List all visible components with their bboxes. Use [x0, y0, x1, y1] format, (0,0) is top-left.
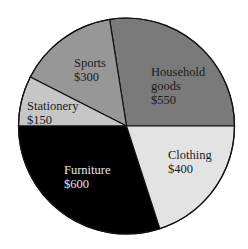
- label-furniture-value: $600: [64, 177, 111, 191]
- label-stationery: Stationery $150: [27, 99, 78, 127]
- label-furniture: Furniture $600: [64, 163, 111, 191]
- label-household-name-2: goods: [151, 79, 205, 93]
- label-household-name-1: Household: [151, 65, 205, 79]
- label-sports: Sports $300: [74, 56, 106, 84]
- label-stationery-name: Stationery: [27, 99, 78, 113]
- label-household-value: $550: [151, 93, 205, 107]
- label-clothing: Clothing $400: [168, 148, 212, 176]
- label-clothing-name: Clothing: [168, 148, 212, 162]
- label-stationery-value: $150: [27, 113, 78, 127]
- label-household-goods: Household goods $550: [151, 65, 205, 107]
- label-clothing-value: $400: [168, 162, 212, 176]
- label-sports-value: $300: [74, 70, 106, 84]
- label-furniture-name: Furniture: [64, 163, 111, 177]
- label-sports-name: Sports: [74, 56, 106, 70]
